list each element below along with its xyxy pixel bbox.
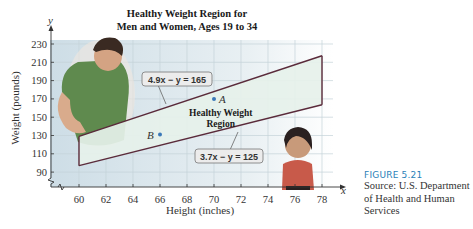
y-tick-label: 130 [31, 130, 47, 141]
x-tick-label: 78 [317, 194, 328, 205]
x-tick-label: 66 [155, 194, 166, 205]
y-tick-label: 190 [31, 75, 47, 86]
x-tick-label: 72 [236, 194, 247, 205]
figure-caption: FIGURE 5.21 Source: U.S. Department of H… [364, 170, 473, 218]
y-tick-label: 230 [31, 39, 47, 50]
x-tick-label: 62 [101, 194, 112, 205]
x-axis-label: Height (inches) [166, 204, 234, 217]
point-label-B: B [147, 129, 154, 141]
x-tick-label: 60 [74, 194, 85, 205]
chart-title-line-1: Healthy Weight Region for [127, 8, 248, 19]
woman-shirt [282, 160, 314, 190]
x-tick-label: 64 [128, 194, 139, 205]
region-label-line-2: Region [207, 119, 236, 129]
y-tick-label: 90 [37, 167, 48, 178]
source-line-3: Services [364, 205, 473, 218]
source-line-1: Source: U.S. Department [364, 180, 473, 193]
lower-boundary-equation: 3.7x − y = 125 [200, 152, 258, 162]
y-tick-label: 150 [31, 112, 47, 123]
point-label-A: A [218, 93, 226, 105]
figure-number: FIGURE 5.21 [364, 170, 473, 180]
chart-title-line-2: Men and Women, Ages 19 to 34 [117, 21, 258, 32]
point-B [158, 133, 162, 137]
x-axis-variable: x [340, 184, 346, 196]
x-tick-label: 76 [290, 194, 301, 205]
y-axis-variable: y [47, 14, 53, 26]
y-tick-label: 210 [31, 57, 47, 68]
y-tick-label: 170 [31, 93, 47, 104]
point-A [212, 97, 216, 101]
region-label-line-1: Healthy Weight [189, 108, 253, 118]
y-axis-label: Weight (pounds) [9, 71, 22, 145]
y-tick-label: 110 [32, 148, 47, 159]
x-tick-label: 74 [263, 194, 274, 205]
source-line-2: of Health and Human [364, 193, 473, 206]
upper-boundary-equation: 4.9x − y = 165 [148, 75, 206, 85]
